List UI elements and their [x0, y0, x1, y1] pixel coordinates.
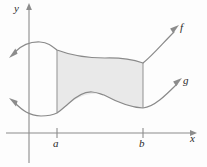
curve-f-left-arrowhead — [9, 49, 18, 59]
tick-label-b: b — [139, 138, 145, 149]
figure-canvas — [0, 0, 207, 167]
x-axis-label: x — [190, 133, 195, 144]
y-axis-label: y — [14, 3, 19, 14]
curve-g-label: g — [183, 75, 189, 86]
y-axis-arrowhead — [26, 3, 32, 10]
curve-g-right-arrowhead — [173, 78, 182, 86]
curve-f-label: f — [180, 22, 183, 33]
curve-g-left-arrowhead — [9, 98, 18, 106]
area-between-curves-figure: y x f g a b — [0, 0, 207, 167]
tick-label-a: a — [53, 138, 59, 149]
